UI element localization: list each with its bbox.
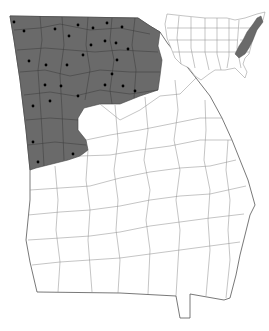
site-marker	[44, 84, 47, 87]
site-marker	[23, 30, 26, 33]
site-marker	[92, 27, 95, 30]
site-marker	[121, 26, 124, 29]
site-marker	[104, 84, 107, 87]
site-marker	[90, 44, 93, 47]
site-marker	[106, 22, 109, 25]
site-marker	[68, 35, 71, 38]
site-marker	[77, 95, 80, 98]
georgia-range-map	[0, 0, 269, 331]
site-marker	[32, 141, 35, 144]
site-marker	[54, 28, 57, 31]
site-marker	[45, 64, 48, 67]
site-marker	[115, 42, 118, 45]
site-marker	[49, 100, 52, 103]
site-marker	[13, 21, 16, 24]
site-marker	[37, 161, 40, 164]
site-marker	[32, 105, 35, 108]
site-marker	[122, 85, 125, 88]
site-marker	[66, 64, 69, 67]
site-marker	[134, 90, 137, 93]
site-marker	[104, 40, 107, 43]
site-marker	[82, 54, 85, 57]
site-marker	[72, 153, 75, 156]
site-marker	[127, 48, 130, 51]
site-marker	[111, 73, 114, 76]
site-marker	[28, 60, 31, 63]
site-marker	[60, 85, 63, 88]
site-marker	[77, 24, 80, 27]
site-marker	[116, 59, 119, 62]
